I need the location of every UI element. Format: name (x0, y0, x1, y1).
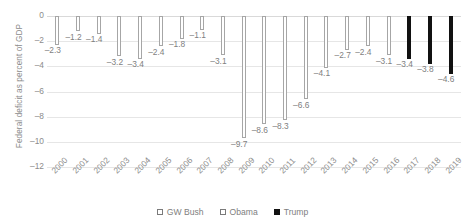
y-axis-tick-labels: 0–2–4–6–8–10–12 (0, 16, 44, 167)
legend-item[interactable]: Trump (274, 207, 309, 217)
y-axis-tick-label: 0 (2, 11, 44, 20)
legend-item[interactable]: GW Bush (157, 207, 204, 217)
bar-value-label: –9.7 (227, 140, 251, 149)
bar[interactable] (407, 16, 411, 59)
y-axis-tick-label: –4 (2, 61, 44, 70)
gridline (47, 92, 461, 93)
bar[interactable] (324, 16, 328, 68)
bar[interactable] (180, 16, 184, 39)
gridline (47, 16, 461, 17)
bar-value-label: –3.1 (206, 57, 230, 66)
y-axis-tick-label: –6 (2, 87, 44, 96)
bar[interactable] (97, 16, 101, 34)
y-axis-tick-label: –10 (2, 137, 44, 146)
bar-value-label: –6.6 (289, 101, 313, 110)
legend-label: Trump (284, 207, 309, 217)
bar[interactable] (449, 16, 453, 74)
gridline (47, 142, 461, 143)
gridline (47, 117, 461, 118)
y-axis-tick-label: –12 (2, 162, 44, 171)
y-axis-tick-label: –2 (2, 36, 44, 45)
y-axis-tick-label: –8 (2, 112, 44, 121)
bar-value-label: –4.1 (310, 69, 334, 78)
bar[interactable] (428, 16, 432, 64)
bar-value-label: –2.3 (41, 46, 65, 55)
bar[interactable] (283, 16, 287, 120)
bar[interactable] (55, 16, 59, 45)
bar-value-label: –1.8 (165, 40, 189, 49)
legend-item[interactable]: Obama (220, 207, 258, 217)
bar[interactable] (345, 16, 349, 50)
bar[interactable] (366, 16, 370, 46)
deficit-bar-chart: Federal deficit as percent of GDP 0–2–4–… (0, 0, 465, 223)
legend-swatch-icon (157, 209, 163, 215)
bar[interactable] (242, 16, 246, 138)
bar[interactable] (387, 16, 391, 55)
bar-value-label: –2.4 (351, 48, 375, 57)
bar[interactable] (262, 16, 266, 124)
bar-value-label: –4.6 (434, 75, 458, 84)
bar-value-label: –8.3 (269, 122, 293, 131)
chart-legend: GW BushObamaTrump (0, 205, 465, 219)
bar-value-label: –1.1 (186, 31, 210, 40)
bar[interactable] (304, 16, 308, 99)
bar[interactable] (76, 16, 80, 31)
bar[interactable] (117, 16, 121, 56)
legend-label: GW Bush (167, 207, 204, 217)
legend-swatch-icon (220, 209, 226, 215)
bar-value-label: –1.4 (82, 35, 106, 44)
bar[interactable] (200, 16, 204, 30)
gridline (47, 41, 461, 42)
bar-value-label: –3.4 (124, 60, 148, 69)
legend-label: Obama (230, 207, 258, 217)
bar[interactable] (138, 16, 142, 59)
x-axis-tick-labels: 2000200120022003200420052006200720082009… (47, 169, 461, 201)
bar[interactable] (159, 16, 163, 46)
gridline (47, 167, 461, 168)
bar[interactable] (221, 16, 225, 55)
legend-swatch-icon (274, 209, 280, 215)
plot-area: –2.3–1.2–1.4–3.2–3.4–2.4–1.8–1.1–3.1–9.7… (47, 16, 461, 167)
bar-value-label: –3.8 (413, 65, 437, 74)
